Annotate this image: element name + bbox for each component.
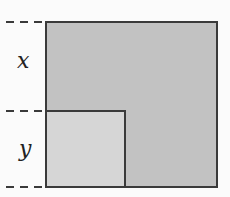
square-diagram: x y [0,0,230,197]
label-x: x [17,50,29,72]
dashed-marker-middle [6,110,44,112]
inner-square [45,110,126,188]
dashed-marker-bottom [6,186,44,188]
dashed-marker-top [6,21,44,23]
label-y: y [19,138,31,160]
